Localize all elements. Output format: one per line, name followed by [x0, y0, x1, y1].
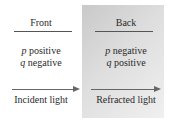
q-sign-label: positive	[111, 57, 145, 68]
back-column: Back p negative q positive Refracted lig…	[85, 0, 167, 122]
p-sign-label: negative	[110, 45, 146, 56]
front-title: Front	[0, 17, 82, 28]
back-title-rule	[95, 31, 153, 32]
front-q-sign: q negative	[0, 57, 82, 68]
refracted-light-caption: Refracted light	[85, 94, 167, 105]
p-sign-label: positive	[26, 45, 60, 56]
back-p-sign: p negative	[85, 45, 167, 56]
front-column: Front p positive q negative Incident lig…	[0, 0, 82, 122]
front-title-rule	[14, 31, 72, 32]
back-title: Back	[85, 17, 167, 28]
refracted-arrow-icon	[91, 89, 155, 90]
back-q-sign: q positive	[85, 57, 167, 68]
incident-light-caption: Incident light	[0, 94, 82, 105]
front-p-sign: p positive	[0, 45, 82, 56]
incident-arrow-icon	[12, 89, 74, 90]
q-sign-label: negative	[25, 57, 61, 68]
